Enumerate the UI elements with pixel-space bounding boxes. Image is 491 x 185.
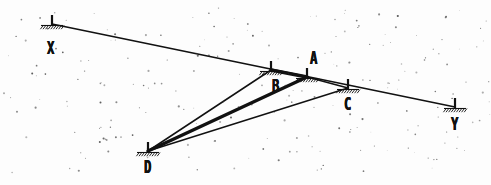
scan-speckle (344, 13, 345, 14)
scan-speckle (145, 34, 147, 36)
scan-speckle (262, 31, 263, 32)
scan-speckle (80, 152, 81, 153)
scan-speckle (446, 131, 447, 132)
scan-speckle (438, 53, 439, 54)
scan-speckle (349, 131, 351, 133)
scan-speckle (103, 84, 105, 86)
scan-speckle (350, 129, 351, 130)
scan-speckle (397, 89, 398, 90)
scan-speckle (333, 105, 334, 106)
scan-speckle (35, 107, 37, 109)
point-label-x: X (47, 40, 54, 57)
scan-speckle (320, 151, 321, 152)
scan-speckle (288, 73, 289, 74)
segment-ray-D-to-B (148, 70, 271, 151)
point-label-a: A (310, 50, 317, 67)
scan-speckle (312, 146, 313, 147)
scan-speckle (218, 7, 219, 8)
scan-speckle (178, 105, 180, 107)
scan-speckle (356, 20, 358, 22)
scan-speckle (69, 168, 70, 169)
scan-speckle (47, 28, 49, 30)
scan-speckle (348, 61, 350, 63)
survey-diagram (0, 0, 491, 185)
segments-layer (52, 24, 455, 151)
scan-speckle (296, 137, 298, 139)
scan-speckle (62, 51, 64, 53)
scan-speckle (476, 46, 477, 47)
scan-speckle (390, 42, 391, 43)
scan-speckle (284, 119, 286, 121)
scan-speckle (230, 116, 232, 118)
scan-speckle (334, 19, 336, 21)
scan-speckle (114, 33, 116, 35)
scan-speckle (148, 88, 149, 89)
scan-speckle (432, 168, 433, 169)
scan-speckle (452, 93, 453, 94)
scan-speckle (395, 26, 397, 28)
scan-speckle (408, 147, 409, 148)
scan-speckle (427, 157, 428, 158)
scan-speckle (378, 13, 380, 15)
scan-speckle (36, 65, 38, 67)
scan-speckle (261, 84, 263, 86)
scan-speckle (99, 128, 100, 129)
segment-ray-D-to-A (148, 77, 307, 151)
scan-speckle (416, 35, 417, 36)
scan-speckle (321, 168, 322, 169)
scan-speckle (385, 34, 386, 35)
scan-speckle (333, 64, 334, 65)
scan-speckle (193, 108, 194, 109)
scan-speckle (374, 145, 375, 146)
scan-speckle (39, 99, 40, 100)
scan-speckle (167, 60, 168, 61)
scan-speckle (415, 71, 417, 73)
scan-speckle (239, 74, 240, 75)
scan-speckle (344, 30, 346, 32)
scan-speckle (482, 92, 484, 94)
scan-speckle (66, 101, 67, 102)
scan-speckle (100, 127, 101, 128)
scan-speckle (99, 141, 101, 143)
scan-speckle (196, 53, 197, 54)
scan-speckle (358, 27, 359, 28)
scan-speckle (451, 98, 452, 99)
scan-speckle (110, 119, 112, 121)
scan-speckle (357, 127, 358, 128)
scan-speckle (369, 44, 370, 45)
scan-speckle (433, 159, 434, 160)
segment-baseline-XY (52, 24, 455, 107)
scan-speckle (115, 136, 117, 138)
scan-speckle (106, 139, 107, 140)
scan-speckle (465, 81, 466, 82)
scan-speckle (248, 158, 249, 159)
scan-speckle (175, 90, 177, 92)
scan-speckle (268, 44, 270, 46)
scan-speckle (446, 64, 448, 66)
scan-speckle (336, 65, 337, 66)
survey-station-marker-x (40, 15, 64, 29)
scan-speckle (214, 140, 216, 142)
scan-speckle (74, 132, 75, 133)
scan-speckle (111, 40, 112, 41)
scan-speckle (232, 43, 234, 45)
scan-speckle (401, 63, 403, 65)
scan-speckle (335, 36, 336, 37)
scan-speckle (143, 85, 145, 87)
scan-speckle (331, 51, 332, 52)
scan-speckle (489, 114, 490, 115)
diagram-canvas: X B A C Y D (0, 0, 491, 185)
scan-speckle (154, 83, 156, 85)
scan-speckle (103, 137, 105, 139)
scan-speckle (288, 95, 290, 97)
scan-speckle (132, 134, 134, 136)
scan-speckle (247, 23, 249, 25)
scan-speckle (363, 170, 365, 172)
point-label-d: D (144, 159, 151, 176)
scan-speckle (88, 60, 89, 61)
scan-speckle (425, 57, 426, 58)
scan-noise-layer (3, 7, 490, 173)
scan-speckle (145, 112, 146, 113)
scan-speckle (80, 60, 82, 62)
scan-speckle (223, 101, 224, 102)
